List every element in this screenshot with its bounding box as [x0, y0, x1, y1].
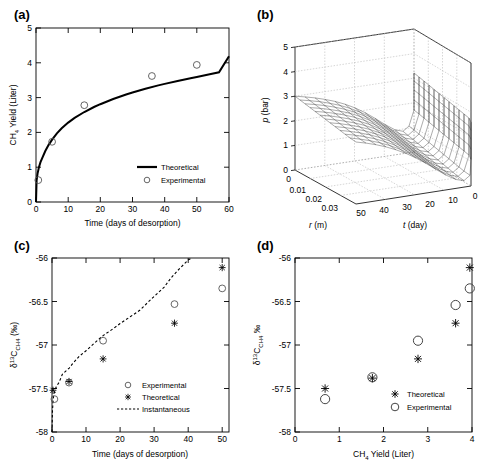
- panel-a-xtick: 10: [63, 204, 73, 214]
- data-point: [171, 301, 178, 308]
- panel-d-ytick: -56.5: [272, 297, 292, 307]
- panel-a-ytick: 5: [27, 23, 32, 33]
- svg-text:CH4 Yield (Liter): CH4 Yield (Liter): [8, 84, 20, 145]
- panel-c: (c) 0 10 20 30: [0, 232, 244, 468]
- panel-c-ytick: -58: [36, 427, 49, 437]
- panel-d-xlabel-main: CH: [353, 449, 365, 459]
- panel-a-svg: (a) 0 10 20: [0, 0, 244, 234]
- panel-c-xtick: 10: [81, 434, 91, 444]
- legend-marker-experimental: [391, 403, 399, 411]
- panel-c-ytick: -57: [36, 340, 49, 350]
- panel-a-ylabel: CH4 Yield (Liter): [8, 84, 20, 145]
- panel-b-zlabel: p (bar): [260, 97, 270, 123]
- panel-b-ztick: 3: [283, 91, 288, 101]
- panel-d-ytick: -57: [279, 340, 292, 350]
- svg-text:δ13CCH4 (‰): δ13CCH4 (‰): [9, 322, 21, 368]
- panel-d-theoretical-points: [321, 263, 474, 392]
- panel-a-ytick: 0: [27, 197, 32, 207]
- panel-c-ylabel: δ13CCH4 (‰): [9, 322, 21, 368]
- panel-c-yticks: [52, 258, 229, 432]
- panel-c-ytick: -56: [36, 253, 49, 263]
- data-point: [81, 102, 88, 109]
- panel-c-xlabel: Time (days of desorption): [92, 449, 188, 459]
- svg-text:p (bar): p (bar): [260, 97, 270, 123]
- panel-c-ytick-labels: -58 -57.5 -57 -56.5 -56: [29, 253, 49, 437]
- panel-c-legend: Experimental Theoretical Instantaneous: [117, 381, 190, 414]
- panel-b-tlabel: t (day): [403, 220, 427, 230]
- panel-b-ztick: 1: [283, 140, 288, 150]
- panel-a-ytick: 4: [27, 58, 32, 68]
- legend-label-theoretical: Theoretical: [142, 393, 180, 402]
- panel-d-label: (d): [257, 238, 274, 253]
- panel-a-xtick: 60: [224, 204, 234, 214]
- panel-a-xtick: 0: [34, 204, 39, 214]
- panel-c-ytick: -56.5: [29, 297, 49, 307]
- legend-marker-theoretical: [125, 394, 131, 400]
- legend-label-experimental: Experimental: [142, 381, 187, 390]
- panel-a: (a) 0 10 20: [0, 0, 244, 234]
- panel-b-tlabel-rest: (day): [405, 220, 427, 230]
- panel-b-ztick: 5: [283, 42, 288, 52]
- panel-a-xtick-labels: 0 10 20 30 40 50 60: [34, 204, 234, 214]
- panel-d-legend: Theoretical Experimental: [391, 390, 451, 412]
- panel-b-ttick-labels: 50 40 30 20 10 0: [356, 191, 477, 218]
- panel-d-ylabel-units: ‰: [252, 324, 262, 335]
- panel-c-theoretical-points: [50, 264, 226, 394]
- panel-b-ztick-labels: 0 1 2 3 4 5: [283, 42, 288, 175]
- panel-d-xtick: 3: [425, 434, 430, 444]
- panel-b-rtick: 0.01: [289, 185, 306, 195]
- panel-b-ttick: 0: [473, 191, 478, 201]
- panel-b-ttick: 20: [425, 199, 435, 209]
- data-point: [465, 284, 474, 293]
- legend-marker-experimental: [144, 177, 150, 183]
- panel-b-rlabel-rest: (m): [312, 220, 327, 230]
- panel-b-ztick: 2: [283, 116, 288, 126]
- panel-c-xtick: 20: [115, 434, 125, 444]
- panel-c-ylabel-sub: CH: [15, 342, 21, 351]
- legend-label-theoretical: Theoretical: [407, 390, 445, 399]
- panel-c-svg: (c) 0 10 20 30: [0, 232, 244, 468]
- panel-b-ttick: 10: [448, 195, 458, 205]
- data-point: [219, 285, 226, 292]
- panel-d-ytick: -58: [279, 427, 292, 437]
- data-point: [100, 337, 107, 344]
- panel-d-ylabel-sub: CH: [258, 339, 264, 348]
- panel-d-ytick-labels: -58 -57.5 -57 -56.5 -56: [272, 253, 292, 437]
- panel-d-xtick-labels: 0 1 2 3 4: [293, 434, 475, 444]
- panel-c-experimental-points: [51, 285, 226, 403]
- legend-label-experimental: Experimental: [161, 176, 206, 185]
- panel-b: (b): [243, 0, 487, 234]
- panel-a-xtick: 40: [160, 204, 170, 214]
- legend-label-experimental: Experimental: [407, 403, 452, 412]
- legend-marker-theoretical: [391, 390, 398, 398]
- panel-b-ttick: 30: [402, 202, 412, 212]
- panel-c-xtick: 0: [50, 434, 55, 444]
- panel-d-svg: (d) 0 1 2 3 4: [243, 232, 487, 468]
- panel-d-ytick: -57.5: [272, 384, 292, 394]
- panel-b-zlabel-rest: (bar): [260, 97, 270, 117]
- panel-a-xtick: 50: [192, 204, 202, 214]
- panel-b-rtick: 0.03: [321, 203, 338, 213]
- panel-b-ttick: 40: [379, 205, 389, 215]
- panel-b-rtick: 0: [286, 174, 291, 184]
- panel-d-xtick: 1: [337, 434, 342, 444]
- panel-a-label: (a): [14, 7, 30, 22]
- panel-b-svg: (b): [243, 0, 487, 234]
- panel-a-ytick-labels: 0 1 2 3 4 5: [27, 23, 32, 207]
- panel-b-rlabel: r (m): [309, 220, 327, 230]
- panel-a-ytick: 2: [27, 127, 32, 137]
- panel-c-ytick: -57.5: [29, 384, 49, 394]
- data-point: [149, 73, 156, 80]
- panel-c-xtick: 40: [183, 434, 193, 444]
- panel-c-ylabel-units: (‰): [9, 322, 19, 339]
- panel-a-xtick: 20: [96, 204, 106, 214]
- panel-d-ytick: -56: [279, 253, 292, 263]
- legend-label-theoretical: Theoretical: [161, 163, 199, 172]
- panel-a-ylabel-rest: Yield (Liter): [8, 84, 18, 130]
- data-point: [193, 62, 200, 69]
- figure-container: (a) 0 10 20: [0, 0, 487, 468]
- panel-d-xtick: 0: [293, 434, 298, 444]
- panel-c-xticks: [52, 258, 222, 432]
- panel-d-xlabel-rest: Yield (Liter): [369, 449, 415, 459]
- panel-b-ztick: 4: [283, 67, 288, 77]
